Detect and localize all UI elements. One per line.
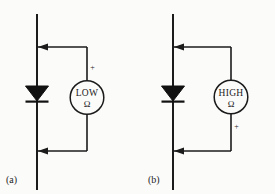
panel-a-diode-symbol [26, 86, 49, 102]
panel-b-caption: (b) [148, 174, 160, 186]
panel-b-diode-symbol [162, 86, 185, 102]
diode-ohmmeter-figure: LOW Ω + (a) [0, 0, 275, 194]
panel-b-diode-triangle-icon [162, 86, 185, 101]
panel-a-top-arrowhead-icon [38, 43, 48, 50]
panel-a-meter-reading-label: LOW [76, 88, 99, 98]
panel-b-meter-unit-symbol: Ω [228, 99, 235, 109]
panel-a-meter-unit-symbol: Ω [84, 99, 91, 109]
panel-a-diode-triangle-icon [26, 86, 49, 101]
panel-b: HIGH Ω + (b) [148, 14, 248, 190]
panel-b-polarity-marker: + [234, 122, 239, 131]
panel-a-bottom-arrowhead-icon [38, 147, 48, 154]
panel-a-caption: (a) [6, 174, 17, 186]
panel-a: LOW Ω + (a) [6, 14, 104, 190]
panel-b-top-arrowhead-icon [174, 43, 184, 50]
panel-b-ohmmeter: HIGH Ω [214, 80, 248, 114]
panel-a-ohmmeter: LOW Ω [70, 81, 104, 115]
circuit-diagram-svg: LOW Ω + (a) [0, 0, 275, 194]
panel-b-meter-reading-label: HIGH [219, 88, 244, 98]
panel-b-bottom-arrowhead-icon [174, 147, 184, 154]
panel-a-polarity-marker: + [90, 63, 95, 72]
